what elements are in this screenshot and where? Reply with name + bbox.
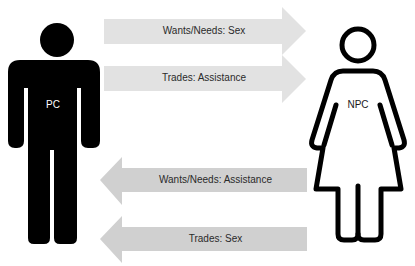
trade-diagram: PC NPC Wants/Needs: Sex Trades: Assistan… bbox=[0, 0, 415, 266]
pc-label: PC bbox=[37, 99, 69, 110]
arrow-label-trades-sex: Trades: Sex bbox=[124, 233, 307, 244]
npc-label: NPC bbox=[340, 99, 376, 110]
arrow-label-trades-assistance: Trades: Assistance bbox=[104, 72, 304, 83]
arrow-label-wants-assistance: Wants/Needs: Assistance bbox=[124, 174, 307, 185]
arrows-layer bbox=[0, 0, 415, 266]
arrow-label-wants-sex: Wants/Needs: Sex bbox=[104, 25, 304, 36]
